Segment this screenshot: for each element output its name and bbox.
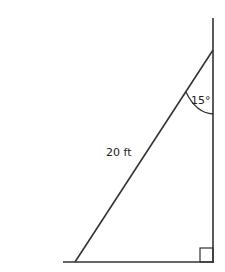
triangle-diagram: 15° 20 ft bbox=[0, 0, 225, 272]
hypotenuse-line bbox=[75, 50, 213, 262]
angle-label: 15° bbox=[191, 94, 211, 107]
right-angle-marker bbox=[200, 248, 213, 262]
hypotenuse-label: 20 ft bbox=[106, 146, 132, 159]
